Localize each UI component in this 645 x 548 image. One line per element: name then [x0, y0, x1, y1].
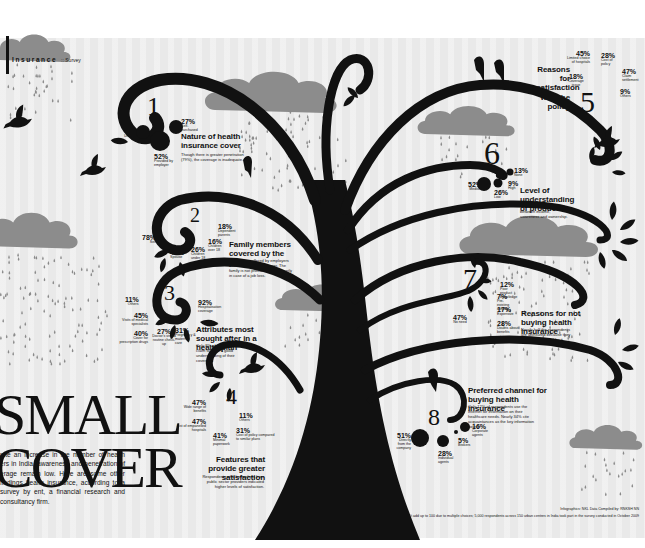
- rain-drop: [64, 301, 66, 305]
- section-number-2: 2: [190, 204, 200, 226]
- rain-drop: [24, 285, 26, 289]
- rain-drop: [440, 136, 442, 140]
- rain-drop: [72, 270, 74, 274]
- rain-drop: [51, 69, 53, 73]
- rain-drop: [570, 267, 572, 271]
- rain-drop: [563, 295, 565, 299]
- rain-drop: [511, 272, 513, 276]
- rain-drop: [455, 157, 457, 161]
- stat-label: Expensive: [497, 313, 514, 317]
- rain-drop: [49, 334, 51, 338]
- rain-drop: [620, 492, 622, 496]
- rain-drop: [100, 321, 102, 325]
- rain-drop: [58, 284, 60, 288]
- rain-drop: [72, 349, 74, 353]
- rain-drop: [59, 362, 61, 366]
- rain-drop: [39, 74, 41, 78]
- rain-drop: [277, 188, 279, 192]
- rain-drop: [290, 179, 292, 183]
- rain-drop: [297, 185, 299, 189]
- rain-drop: [309, 139, 311, 143]
- rain-drop: [249, 138, 251, 142]
- rain-drop: [570, 358, 572, 362]
- rain-drop: [290, 122, 292, 126]
- intro-text: pite an increase in the number of health…: [0, 450, 125, 506]
- rain-drop: [519, 285, 521, 289]
- rain-drop: [93, 256, 95, 260]
- rain-drop: [624, 469, 626, 473]
- rain-drop: [9, 276, 11, 280]
- rain-drop: [42, 80, 44, 84]
- rain-drop: [86, 268, 88, 272]
- rain-drop: [305, 332, 307, 336]
- stat-label: Directly from the company: [393, 439, 411, 451]
- rain-drop: [78, 323, 80, 327]
- rain-drop: [605, 463, 607, 467]
- rain-drop: [97, 299, 99, 303]
- rain-drop: [7, 85, 9, 89]
- cloud-right-mid: [459, 216, 598, 257]
- rain-drop: [38, 93, 40, 97]
- rain-drop: [25, 334, 27, 338]
- rain-drop: [345, 159, 347, 163]
- rain-drop: [613, 461, 615, 465]
- rain-drop: [299, 343, 301, 347]
- rain-drop: [567, 302, 569, 306]
- rain-drop: [29, 81, 31, 85]
- rain-drop: [509, 353, 511, 357]
- rain-drop: [0, 292, 2, 296]
- rain-drop: [90, 272, 92, 276]
- rain-drop: [68, 262, 70, 266]
- stat-label: None: [514, 174, 528, 178]
- rain-drop: [21, 311, 23, 315]
- rain-drop: [60, 256, 62, 260]
- rain-drop: [42, 256, 44, 260]
- rain-drop: [266, 152, 268, 156]
- rain-drop: [81, 323, 83, 327]
- rain-drop: [604, 458, 606, 462]
- masthead-separator: ::: [61, 57, 64, 63]
- rain-drop: [12, 74, 14, 78]
- rain-drop: [23, 74, 25, 78]
- rain-drop: [9, 271, 11, 275]
- stat-label: Others: [125, 303, 139, 307]
- rain-drop: [249, 134, 251, 138]
- stat-label: Limited choice of hospitals: [564, 57, 590, 65]
- rain-drop: [245, 130, 247, 134]
- stat-label: Others: [620, 95, 631, 99]
- rain-drop: [595, 452, 597, 456]
- rain-drop: [460, 175, 462, 179]
- stat-label: Children over 18: [208, 245, 228, 253]
- stat-label: Minimal paperwork: [213, 439, 235, 447]
- rain-drop: [337, 164, 339, 168]
- rain-drop: [86, 331, 88, 335]
- stat-label: Children under 18: [191, 253, 211, 261]
- section-number-5: 5: [580, 85, 595, 118]
- rain-drop: [71, 79, 73, 83]
- rain-drop: [241, 135, 243, 139]
- rain-drop: [49, 349, 51, 353]
- rain-drop: [294, 338, 296, 342]
- rain-drop: [584, 464, 586, 468]
- rain-drop: [75, 334, 77, 338]
- rain-drop: [43, 89, 45, 93]
- rain-drop: [15, 106, 17, 110]
- rain-drop: [0, 336, 2, 340]
- section-number-4: 4: [226, 384, 237, 409]
- rain-drop: [74, 271, 76, 275]
- rain-drop: [47, 294, 49, 298]
- rain-drop: [6, 292, 8, 296]
- rain-drop: [255, 136, 257, 140]
- rain-drop: [503, 274, 505, 278]
- rain-drop: [307, 313, 309, 317]
- rain-drop: [531, 304, 533, 308]
- rain-drop: [17, 253, 19, 257]
- rain-drop: [457, 154, 459, 158]
- rain-drop: [77, 330, 79, 334]
- section-description: The policies offered by employers cover …: [229, 258, 294, 278]
- rain-drop: [35, 90, 37, 94]
- rain-drop: [630, 468, 632, 472]
- rain-drop: [585, 485, 587, 489]
- rain-drop: [315, 318, 317, 322]
- rain-drop: [551, 347, 553, 351]
